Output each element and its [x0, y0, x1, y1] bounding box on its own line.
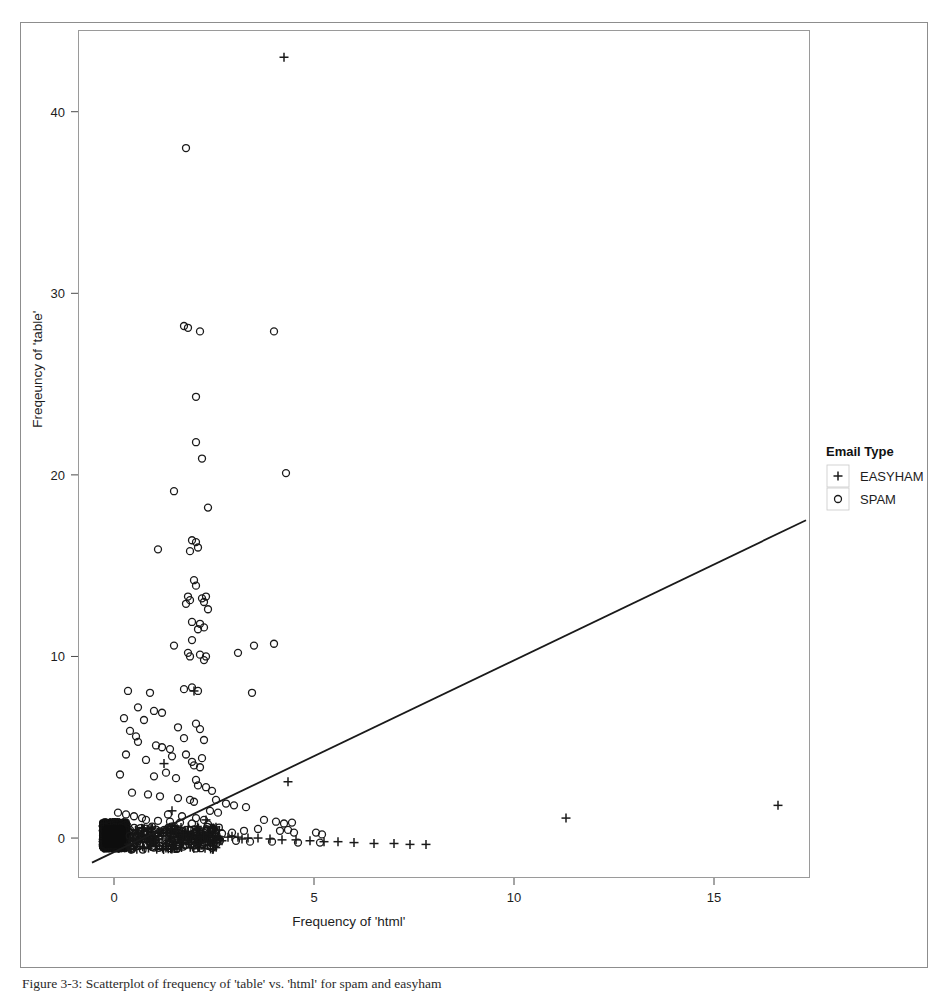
point-spam — [249, 689, 256, 696]
point-spam — [115, 809, 122, 816]
point-spam — [291, 829, 298, 836]
point-spam — [181, 735, 188, 742]
point-spam — [129, 789, 136, 796]
point-spam — [189, 618, 196, 625]
point-spam — [189, 637, 196, 644]
point-spam — [223, 800, 230, 807]
point-spam — [173, 775, 180, 782]
point-spam — [205, 504, 212, 511]
y-tick-label: 20 — [51, 468, 65, 483]
legend-label-easyham: EASYHAM — [860, 469, 924, 484]
point-spam — [157, 793, 164, 800]
x-axis-title: Frequency of 'html' — [292, 914, 405, 929]
point-spam — [235, 649, 242, 656]
point-spam — [215, 809, 222, 816]
legend-title: Email Type — [826, 444, 894, 459]
point-spam — [159, 709, 166, 716]
point-spam — [241, 827, 248, 834]
point-spam — [125, 687, 132, 694]
point-spam — [165, 811, 172, 818]
point-spam — [199, 455, 206, 462]
point-spam — [151, 707, 158, 714]
point-spam — [209, 787, 216, 794]
x-tick-label: 0 — [110, 890, 117, 905]
point-spam — [273, 818, 280, 825]
x-tick-label: 5 — [310, 890, 317, 905]
point-spam — [201, 736, 208, 743]
point-spam — [271, 328, 278, 335]
point-spam — [183, 751, 190, 758]
point-spam — [281, 820, 288, 827]
point-spam — [121, 715, 128, 722]
point-spam — [197, 726, 204, 733]
series-easyham — [112, 53, 783, 849]
point-spam — [155, 817, 162, 824]
legend: Email TypeEASYHAMSPAM — [826, 444, 924, 510]
point-spam — [283, 470, 290, 477]
point-spam — [181, 686, 188, 693]
point-spam — [123, 811, 130, 818]
point-spam — [277, 827, 284, 834]
point-spam — [317, 839, 324, 846]
x-tick-label: 15 — [707, 890, 721, 905]
point-spam — [163, 769, 170, 776]
point-spam — [175, 724, 182, 731]
point-spam — [123, 751, 130, 758]
point-spam — [145, 791, 152, 798]
point-spam — [127, 727, 134, 734]
point-spam — [171, 642, 178, 649]
legend-marker-circle-icon — [835, 496, 842, 503]
point-spam — [147, 689, 154, 696]
point-spam — [207, 807, 214, 814]
point-spam — [135, 704, 142, 711]
point-spam — [193, 439, 200, 446]
point-spam — [117, 771, 124, 778]
point-spam — [141, 717, 148, 724]
point-spam — [175, 795, 182, 802]
scatter-chart: 051015010203040Frequency of 'html'Freqeu… — [0, 0, 948, 992]
point-spam — [151, 773, 158, 780]
point-spam — [255, 825, 262, 832]
y-tick-label: 30 — [51, 286, 65, 301]
point-spam — [193, 393, 200, 400]
point-spam — [155, 546, 162, 553]
legend-key-box — [827, 488, 849, 510]
axis-ticks: 051015010203040 — [51, 105, 722, 905]
point-spam — [199, 755, 206, 762]
y-tick-label: 40 — [51, 105, 65, 120]
point-spam — [289, 819, 296, 826]
y-axis-title: Freqeuncy of 'table' — [30, 311, 45, 428]
figure-container: 051015010203040Frequency of 'html'Freqeu… — [0, 0, 948, 992]
point-spam — [131, 813, 138, 820]
x-tick-label: 10 — [507, 890, 521, 905]
point-spam — [187, 548, 194, 555]
point-spam — [143, 756, 150, 763]
point-spam — [183, 145, 190, 152]
point-spam — [171, 488, 178, 495]
point-spam — [205, 606, 212, 613]
point-spam — [169, 753, 176, 760]
point-spam — [231, 802, 238, 809]
point-spam — [167, 746, 174, 753]
figure-caption: Figure 3-3: Scatterplot of frequency of … — [22, 975, 922, 992]
point-spam — [271, 640, 278, 647]
y-tick-label: 0 — [58, 831, 65, 846]
regression-line — [92, 520, 806, 862]
y-tick-label: 10 — [51, 649, 65, 664]
point-spam — [261, 816, 268, 823]
point-spam — [197, 328, 204, 335]
origin-ink-core — [102, 825, 126, 848]
point-spam — [243, 804, 250, 811]
series-spam — [113, 145, 326, 847]
point-spam — [251, 642, 258, 649]
legend-label-spam: SPAM — [860, 492, 896, 507]
